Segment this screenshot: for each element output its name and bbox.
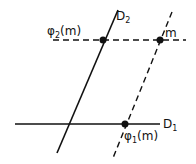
label-m: m — [165, 27, 177, 39]
diagram-svg — [0, 0, 196, 164]
point-m — [157, 37, 164, 44]
label-d1: D1 — [163, 118, 177, 133]
label-d2: D2 — [116, 10, 130, 25]
projection-diagram: D2 D1 m φ2(m) φ1(m) — [0, 0, 196, 164]
point-phi2-m — [100, 37, 107, 44]
label-phi2-m: φ2(m) — [47, 25, 81, 40]
point-phi1-m — [122, 121, 129, 128]
label-phi1-m: φ1(m) — [124, 130, 158, 145]
